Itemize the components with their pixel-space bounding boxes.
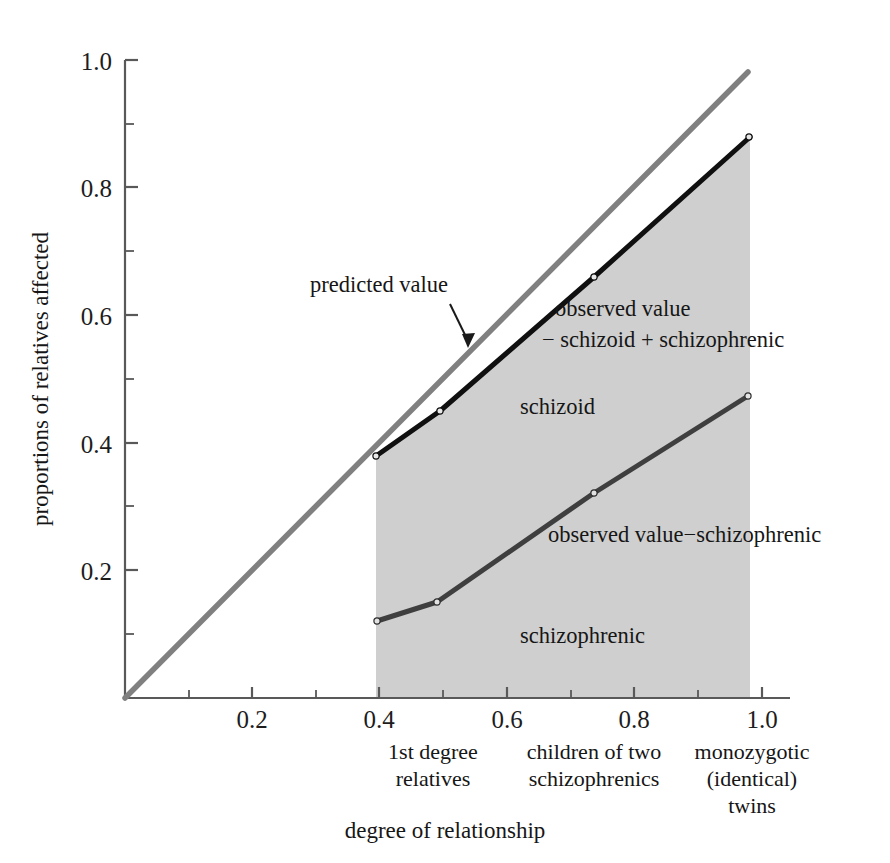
annotation-schizophrenic: schizophrenic xyxy=(520,623,645,648)
y-tick-label-0_6: 0.6 xyxy=(81,303,112,330)
annotation-schizoid: schizoid xyxy=(520,394,595,419)
x-tick-label-0_2: 0.2 xyxy=(236,706,267,733)
x-tick-label-0_6: 0.6 xyxy=(491,706,522,733)
x-axis-title: degree of relationship xyxy=(345,818,546,843)
x-tick-label-0_8: 0.8 xyxy=(618,706,649,733)
y-tick-label-0_4: 0.4 xyxy=(81,431,113,458)
y-tick-label-0_2: 0.2 xyxy=(81,558,112,585)
category-label-3-line-3: twins xyxy=(728,793,776,818)
chart-figure: 1.0 0.8 0.6 0.4 0.2 0.2 0.4 0.6 0.8 1.0 … xyxy=(0,0,890,863)
x-tick-label-1_0: 1.0 xyxy=(746,706,777,733)
category-label-1-line-1: 1st degree xyxy=(388,739,478,764)
category-label-3-line-1: monozygotic xyxy=(695,739,810,764)
y-axis-title: proportions of relatives affected xyxy=(28,232,53,526)
annotation-observed-total-line-1: observed value xyxy=(555,296,691,321)
chart-svg: 1.0 0.8 0.6 0.4 0.2 0.2 0.4 0.6 0.8 1.0 … xyxy=(0,0,890,863)
y-tick-label-0_8: 0.8 xyxy=(81,175,112,202)
x-tick-label-0_4: 0.4 xyxy=(363,706,395,733)
annotation-predicted-value: predicted value xyxy=(310,272,448,297)
y-tick-label-1_0: 1.0 xyxy=(81,48,112,75)
category-label-2-line-2: schizophrenics xyxy=(529,766,660,791)
annotation-observed-total-line-2: − schizoid + schizophrenic xyxy=(542,327,784,352)
category-label-2-line-1: children of two xyxy=(527,739,661,764)
category-label-1-line-2: relatives xyxy=(396,766,471,791)
annotation-observed-schizophrenic: observed value−schizophrenic xyxy=(548,522,821,547)
category-label-3-line-2: (identical) xyxy=(707,766,797,791)
